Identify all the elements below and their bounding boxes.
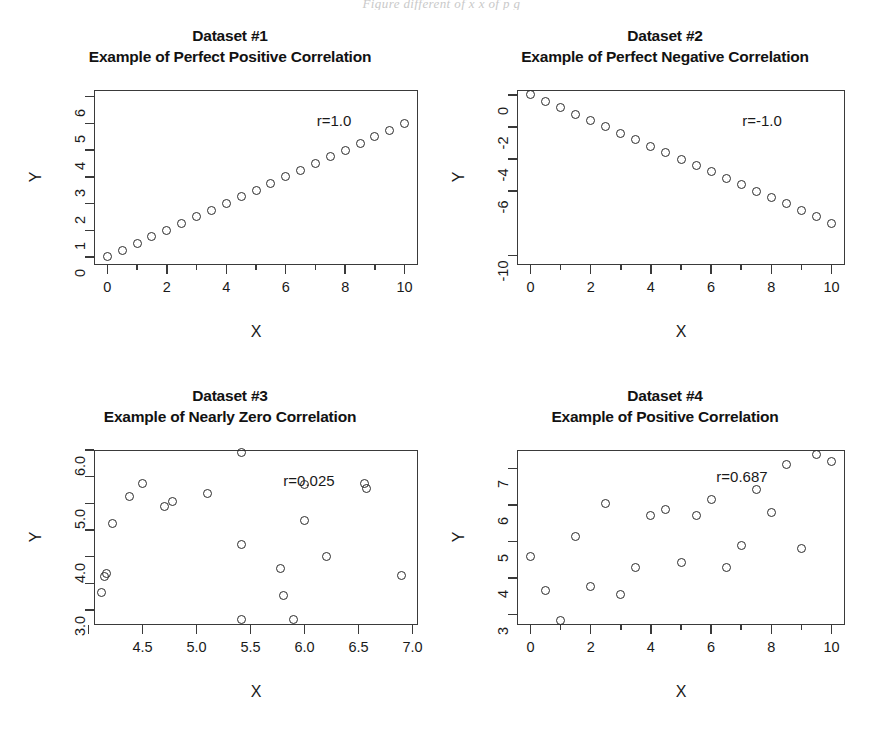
x-axis-minor-tick — [740, 625, 741, 630]
panel-subtitle-line-2: Example of Perfect Negative Correlation — [455, 47, 875, 67]
x-axis-tick — [710, 265, 711, 274]
x-axis-tick — [107, 265, 108, 274]
x-axis-tick — [831, 625, 832, 634]
data-point — [571, 110, 580, 119]
x-axis-title: X — [236, 323, 276, 341]
data-point — [631, 563, 640, 572]
x-axis-tick-label: 8 — [320, 279, 370, 295]
x-axis-minor-tick — [136, 265, 137, 270]
data-point — [827, 219, 836, 228]
data-point — [237, 192, 246, 201]
x-axis-minor-tick — [620, 265, 621, 270]
x-axis-tick-label: 10 — [380, 279, 430, 295]
data-point — [279, 591, 288, 600]
data-point — [300, 516, 309, 525]
panel-title-line-1: Dataset #3 — [30, 386, 430, 406]
x-axis-tick-label: 5.0 — [172, 639, 222, 655]
x-axis-tick — [530, 265, 531, 274]
data-point — [385, 126, 394, 135]
panel-title-line-1: Dataset #1 — [30, 26, 430, 46]
data-point — [118, 246, 127, 255]
x-axis-minor-tick — [315, 265, 316, 270]
x-axis-tick — [771, 625, 772, 634]
x-axis-tick-label: 2 — [566, 639, 616, 655]
data-point — [692, 511, 701, 520]
y-axis-tick-label: 0 — [495, 94, 511, 128]
y-axis-tick-label: -6 — [495, 190, 511, 224]
x-axis-minor-tick — [620, 625, 621, 630]
x-axis-tick-label: 2 — [566, 279, 616, 295]
data-point — [222, 199, 231, 208]
x-axis-tick-label: 10 — [806, 639, 856, 655]
y-axis-tick-label: 5 — [495, 541, 511, 575]
data-point — [737, 180, 746, 189]
y-axis-title: Y — [27, 517, 45, 557]
figure-page: Figure different of x x of p g Dataset #… — [0, 0, 883, 741]
y-axis-title: Y — [450, 157, 468, 197]
x-axis-tick — [358, 625, 359, 634]
x-axis-tick — [771, 265, 772, 274]
x-axis-minor-tick — [374, 265, 375, 270]
data-point — [586, 582, 595, 591]
plot-area — [517, 450, 845, 625]
panel-subtitle-line-2: Example of Positive Correlation — [455, 407, 875, 427]
x-axis-tick-label: 4.5 — [118, 639, 168, 655]
data-point — [400, 119, 409, 128]
x-axis-tick-label: 6.0 — [280, 639, 330, 655]
y-axis-tick-label: 6 — [72, 96, 88, 130]
data-point — [541, 97, 550, 106]
data-point — [797, 544, 806, 553]
x-axis-tick-label: 4 — [626, 639, 676, 655]
x-axis-minor-tick — [680, 625, 681, 630]
x-axis-title: X — [661, 323, 701, 341]
data-point — [707, 495, 716, 504]
correlation-annotation: r=-1.0 — [717, 112, 807, 129]
data-point — [692, 161, 701, 170]
data-point — [677, 155, 686, 164]
x-axis-minor-tick — [680, 265, 681, 270]
y-axis-tick-label: -2 — [495, 126, 511, 160]
x-axis-tick-label: 6 — [686, 639, 736, 655]
data-point — [571, 532, 580, 541]
x-axis-tick — [196, 625, 197, 634]
panel-subtitle-line-2: Example of Perfect Positive Correlation — [30, 47, 430, 67]
chart-panel-dataset-3: Dataset #3Example of Nearly Zero Correla… — [30, 386, 430, 726]
data-point — [767, 508, 776, 517]
y-axis-tick-label: 3.0 — [72, 609, 88, 643]
x-axis-tick — [304, 625, 305, 634]
x-axis-tick — [142, 625, 143, 634]
page-caption-fragment: Figure different of x x of p g — [0, 0, 883, 10]
correlation-annotation: r=1.0 — [289, 112, 379, 129]
data-point — [133, 239, 142, 248]
data-point — [362, 484, 371, 493]
data-point — [782, 460, 791, 469]
x-axis-minor-tick — [560, 265, 561, 270]
x-axis-title: X — [236, 683, 276, 701]
x-axis-tick — [831, 265, 832, 274]
panel-title-line-1: Dataset #2 — [455, 26, 875, 46]
y-axis-tick-label: 7 — [495, 467, 511, 501]
y-axis-tick-label: 4.0 — [72, 556, 88, 590]
x-axis-tick-label: 4 — [626, 279, 676, 295]
x-axis-tick-label: 7.0 — [388, 639, 438, 655]
x-axis-title: X — [661, 683, 701, 701]
data-point — [556, 616, 565, 625]
x-axis-tick — [404, 265, 405, 274]
x-axis-tick-label: 0 — [506, 639, 556, 655]
x-axis-tick-label: 8 — [746, 639, 796, 655]
data-point — [207, 206, 216, 215]
x-axis-minor-tick — [801, 625, 802, 630]
x-axis-tick — [590, 265, 591, 274]
x-axis-tick — [226, 265, 227, 274]
data-point — [722, 563, 731, 572]
correlation-annotation: r=0.687 — [697, 468, 787, 485]
x-axis-tick — [590, 625, 591, 634]
x-axis-tick-label: 6 — [261, 279, 311, 295]
x-axis-tick — [412, 625, 413, 634]
x-axis-tick — [650, 625, 651, 634]
x-axis-tick — [530, 625, 531, 634]
data-point — [677, 558, 686, 567]
data-point — [108, 519, 117, 528]
x-axis-tick-label: 0 — [506, 279, 556, 295]
data-point — [341, 146, 350, 155]
